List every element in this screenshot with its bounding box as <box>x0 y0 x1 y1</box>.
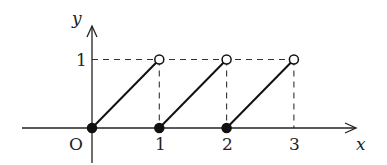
segment-1 <box>92 60 159 129</box>
segment-3 <box>227 60 294 129</box>
x-tick-label-1: 1 <box>155 134 166 154</box>
closed-endpoint-1 <box>88 124 97 133</box>
y-axis-label: y <box>71 8 82 28</box>
segment-2 <box>159 60 226 129</box>
x-tick-label-3: 3 <box>289 134 300 154</box>
open-endpoint-3 <box>289 55 298 64</box>
x-tick-label-2: 2 <box>222 134 233 154</box>
y-tick-label-1: 1 <box>76 50 87 70</box>
origin-label: O <box>69 134 83 154</box>
open-endpoint-2 <box>222 55 231 64</box>
segments <box>88 55 299 133</box>
closed-endpoint-3 <box>222 124 231 133</box>
open-endpoint-1 <box>155 55 164 64</box>
sawtooth-graph: y x O 1 1 2 3 <box>0 0 387 165</box>
closed-endpoint-2 <box>155 124 164 133</box>
x-axis-label: x <box>356 134 366 154</box>
